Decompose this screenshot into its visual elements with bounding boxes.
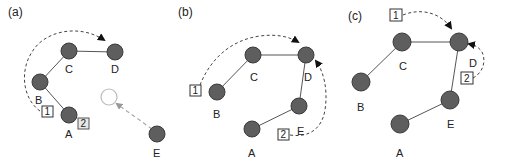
node-c: [61, 43, 77, 59]
ghost-move-arrow: [117, 104, 152, 129]
step-box-label-1: 1: [193, 85, 199, 96]
node-a: [244, 121, 260, 137]
node-label-c: C: [65, 63, 73, 75]
node-c: [393, 33, 411, 51]
node-b: [352, 73, 370, 91]
node-d: [107, 44, 123, 60]
panel-a: (a) A B C D E 1 2: [8, 5, 165, 159]
node-label-e: E: [447, 118, 454, 130]
node-label-e: E: [153, 147, 160, 159]
panel-label-c: (c): [348, 9, 362, 23]
node-label-c: C: [399, 60, 407, 72]
ghost-node: [101, 89, 117, 105]
node-label-b: B: [357, 101, 364, 113]
node-label-d: D: [469, 57, 477, 69]
graph-diagram-figure: (a) A B C D E 1 2 (b): [0, 0, 507, 165]
panel-c: (c) A B C D E 1 2: [348, 9, 484, 159]
step-box-label-2: 2: [464, 73, 470, 84]
node-e: [441, 91, 459, 109]
node-d: [450, 33, 468, 51]
step-box-label-1: 1: [393, 10, 399, 21]
node-c: [245, 47, 261, 63]
step-box-label-2: 2: [81, 118, 87, 129]
node-label-a: A: [396, 147, 404, 159]
step-box-label-2: 2: [281, 129, 287, 140]
node-label-a: A: [248, 147, 256, 159]
node-label-a: A: [65, 128, 73, 140]
node-label-b: B: [213, 108, 220, 120]
node-b: [209, 84, 225, 100]
node-e: [291, 98, 307, 114]
node-e: [149, 126, 165, 142]
node-label-e: E: [297, 125, 304, 137]
panel-label-a: (a): [8, 5, 23, 19]
node-a: [391, 115, 409, 133]
node-label-c: C: [250, 71, 258, 83]
panel-label-b: (b): [178, 5, 193, 19]
node-d: [298, 47, 314, 63]
node-label-d: D: [304, 71, 312, 83]
dashed-move-arrow-1: [403, 12, 451, 28]
panel-b: (b) A B C D E 1 2: [178, 5, 326, 159]
step-box-label-1: 1: [45, 106, 51, 117]
node-label-b: B: [35, 94, 42, 106]
node-a: [61, 107, 77, 123]
node-label-d: D: [111, 63, 119, 75]
node-b: [32, 74, 48, 90]
